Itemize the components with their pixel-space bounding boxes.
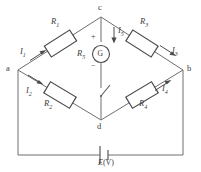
- current-arrow-I5: [111, 27, 116, 44]
- resistor-R1-body: [44, 30, 76, 57]
- resistor-label-R5: R5: [77, 49, 85, 60]
- switch-arm: [101, 85, 110, 96]
- source-label: E(V): [98, 159, 114, 167]
- resistor-R3-body: [126, 30, 158, 57]
- current-label-I3: I3: [172, 46, 178, 57]
- circuit-diagram: a b c d R1 R2 R3 R4 R5 I1 I2 I3 I4 I5 G …: [0, 0, 201, 172]
- current-label-I2: I2: [26, 86, 32, 97]
- node-label-a: a: [6, 64, 10, 73]
- galvanometer-plus-sign: +: [91, 33, 96, 41]
- resistor-label-R4: R4: [139, 99, 147, 110]
- resistor-label-R2: R2: [44, 99, 52, 110]
- branch-a-c: [18, 17, 101, 70]
- node-label-b: b: [187, 64, 191, 73]
- current-arrow-I1: [30, 50, 47, 61]
- current-arrow-I2: [28, 75, 44, 85]
- current-label-I5: I5: [118, 26, 124, 37]
- resistor-label-R3: R3: [140, 17, 148, 28]
- current-label-I4: I4: [162, 84, 168, 95]
- galvanometer-symbol: G: [98, 50, 103, 58]
- node-label-c: c: [98, 3, 102, 12]
- resistor-label-R1: R1: [51, 17, 59, 28]
- galvanometer-minus-sign: −: [91, 62, 96, 70]
- node-label-d: d: [97, 122, 101, 131]
- branch-d-b: [101, 70, 183, 120]
- current-label-I1: I1: [20, 47, 26, 58]
